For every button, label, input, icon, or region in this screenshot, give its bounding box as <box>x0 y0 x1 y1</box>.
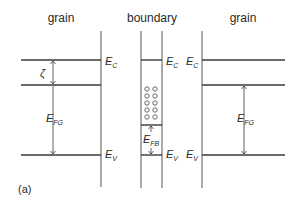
boundary-ec-label: EC <box>166 55 179 69</box>
boundary: EFB EC EV <box>141 31 179 188</box>
zeta-label: ζ <box>40 67 46 80</box>
right-grain-title: grain <box>230 11 257 25</box>
right-ev-label: EV <box>186 148 199 162</box>
trap-states <box>145 87 157 119</box>
right-efg-label: EFG <box>237 112 255 126</box>
band-diagram: grain boundary grain ζ EFG EC EV EFB EC … <box>0 0 298 210</box>
panel-label: (a) <box>18 183 31 195</box>
left-efg-label: EFG <box>46 112 64 126</box>
left-grain: ζ EFG EC EV <box>21 31 118 187</box>
left-grain-title: grain <box>48 11 75 25</box>
left-ev-label: EV <box>105 148 118 162</box>
efb-label: EFB <box>143 133 160 147</box>
right-grain: EFG EC EV <box>186 31 285 188</box>
right-ec-label: EC <box>186 55 199 69</box>
boundary-ev-label: EV <box>166 148 179 162</box>
boundary-title: boundary <box>127 11 177 25</box>
left-ec-label: EC <box>105 55 118 69</box>
